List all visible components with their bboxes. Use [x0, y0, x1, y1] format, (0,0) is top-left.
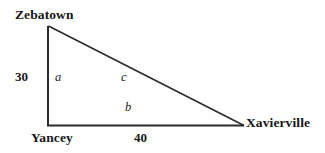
side-label-c: c [121, 71, 127, 84]
side-label-b: b [125, 101, 131, 114]
side-measure-horizontal: 40 [134, 131, 147, 144]
side-measure-vertical: 30 [15, 70, 28, 83]
triangle-side-c-line [49, 26, 245, 126]
vertex-label-yancey: Yancey [31, 131, 73, 145]
vertex-label-xavierville: Xavierville [246, 116, 310, 130]
vertex-label-zebatown: Zebatown [15, 8, 74, 22]
geometry-figure-canvas: Zebatown Yancey Xavierville 30 40 a b c [0, 0, 325, 153]
side-label-a: a [55, 71, 61, 84]
